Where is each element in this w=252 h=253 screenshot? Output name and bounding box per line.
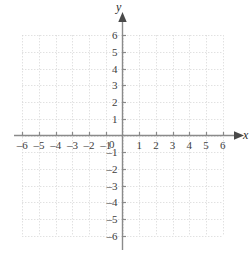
y-tick-label: –1 bbox=[0, 147, 118, 158]
y-tick-label: 6 bbox=[0, 30, 118, 41]
y-tick-label: –2 bbox=[0, 163, 118, 174]
x-tick-label: 5 bbox=[203, 140, 209, 151]
y-tick-label: 3 bbox=[0, 80, 118, 91]
y-tick-label: –4 bbox=[0, 197, 118, 208]
coordinate-plane-figure: –6–5–4–3–2–1123456 654321–1–2–3–4–5–6 0 … bbox=[0, 0, 252, 253]
x-axis-label: x bbox=[243, 129, 248, 141]
y-tick-label: 4 bbox=[0, 63, 118, 74]
y-tick-label: –5 bbox=[0, 214, 118, 225]
y-tick-label: 1 bbox=[0, 113, 118, 124]
y-tick-label: 2 bbox=[0, 97, 118, 108]
x-tick-label: 6 bbox=[220, 140, 226, 151]
y-axis-label: y bbox=[116, 1, 121, 13]
y-tick-label: –6 bbox=[0, 230, 118, 241]
x-tick-label: 3 bbox=[170, 140, 176, 151]
y-tick-label: –3 bbox=[0, 180, 118, 191]
x-tick-label: 2 bbox=[153, 140, 159, 151]
x-tick-label: 4 bbox=[187, 140, 193, 151]
y-tick-label: 5 bbox=[0, 47, 118, 58]
x-tick-label: 1 bbox=[136, 140, 142, 151]
origin-tick-label: 0 bbox=[109, 139, 115, 150]
